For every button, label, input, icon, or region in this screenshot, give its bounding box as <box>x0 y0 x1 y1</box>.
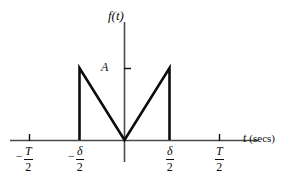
x-axis-variable: t <box>243 131 246 145</box>
x-tick-label-neg-delta-over-2: δ 2 <box>76 145 84 173</box>
amplitude-label: A <box>101 61 108 73</box>
x-tick-label-neg-T-over-2: T 2 <box>24 145 33 173</box>
x-axis-unit: (secs) <box>249 132 275 144</box>
fraction-denominator: 2 <box>167 160 173 174</box>
fraction-numerator: T <box>215 145 224 160</box>
fraction-numerator: δ <box>166 145 174 160</box>
fraction-denominator: 2 <box>77 160 83 174</box>
fraction-numerator: δ <box>76 145 84 160</box>
x-tick-label-pos-T-over-2: T 2 <box>215 145 224 173</box>
x-axis-title: t (secs) <box>243 132 275 144</box>
x-tick-label-pos-delta-over-2: δ 2 <box>166 145 174 173</box>
plot-canvas <box>0 0 291 180</box>
fraction-denominator: 2 <box>25 160 31 174</box>
waveform-figure: f(t) A t (secs) T 2 δ 2 δ 2 T 2 <box>0 0 291 180</box>
y-axis-title: f(t) <box>108 9 124 22</box>
fraction-numerator: T <box>24 145 33 160</box>
fraction-denominator: 2 <box>216 160 222 174</box>
